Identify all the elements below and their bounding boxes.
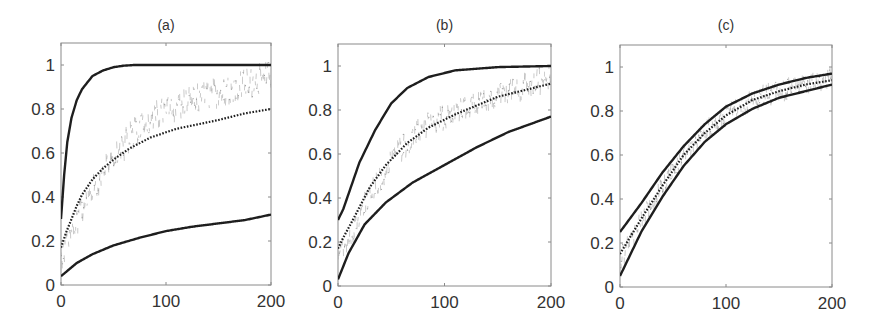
y-tick-label: 0.8 xyxy=(31,100,55,119)
lower-bound-curve xyxy=(61,215,271,277)
x-tick-label: 0 xyxy=(56,292,65,311)
y-tick-label: 1 xyxy=(605,58,614,77)
mean-curve xyxy=(61,109,271,248)
panel-a: (a)00.20.40.60.810100200 xyxy=(31,17,285,311)
upper-bound-curve xyxy=(338,66,551,220)
lower-bound-curve xyxy=(620,85,832,276)
observed-scatter xyxy=(61,62,272,268)
x-tick-label: 200 xyxy=(537,293,565,312)
x-tick-label: 200 xyxy=(257,292,285,311)
y-tick-label: 1 xyxy=(46,56,55,75)
y-tick-label: 0.2 xyxy=(590,234,614,253)
y-tick-label: 0.4 xyxy=(308,189,332,208)
observed-scatter xyxy=(337,66,552,260)
x-tick-label: 100 xyxy=(152,292,180,311)
axes-frame xyxy=(61,43,271,285)
y-tick-label: 1 xyxy=(323,57,332,76)
panel-title: (c) xyxy=(718,17,734,33)
y-tick-label: 0.8 xyxy=(590,102,614,121)
x-tick-label: 0 xyxy=(333,293,342,312)
y-tick-label: 0.6 xyxy=(31,144,55,163)
y-tick-label: 0.4 xyxy=(31,188,55,207)
panel-c: (c)00.20.40.60.810100200 xyxy=(590,17,846,313)
plot-area xyxy=(620,68,833,276)
y-tick-label: 0.6 xyxy=(590,146,614,165)
y-tick-label: 0.6 xyxy=(308,145,332,164)
y-tick-label: 0.2 xyxy=(308,233,332,252)
y-tick-label: 0.2 xyxy=(31,232,55,251)
observed-scatter xyxy=(620,68,833,269)
y-tick-label: 0.4 xyxy=(590,190,614,209)
y-tick-label: 0 xyxy=(605,278,614,297)
panel-b: (b)00.20.40.60.810100200 xyxy=(308,17,565,312)
x-tick-label: 200 xyxy=(818,294,846,313)
panel-title: (a) xyxy=(157,17,174,33)
y-tick-label: 0.8 xyxy=(308,101,332,120)
y-tick-label: 0 xyxy=(323,277,332,296)
x-tick-label: 0 xyxy=(615,294,624,313)
panel-title: (b) xyxy=(436,17,453,33)
x-tick-label: 100 xyxy=(430,293,458,312)
x-tick-label: 100 xyxy=(712,294,740,313)
y-tick-label: 0 xyxy=(46,276,55,295)
plot-area xyxy=(337,66,552,280)
plot-area xyxy=(61,62,272,276)
figure: (a)00.20.40.60.810100200 (b)00.20.40.60.… xyxy=(0,0,869,328)
